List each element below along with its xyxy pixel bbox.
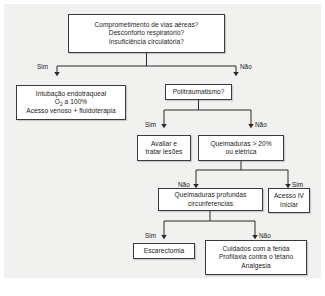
- node-line: Analgesia: [241, 262, 270, 270]
- edge-label-airway-yes: Sim: [37, 63, 48, 70]
- node-deep-circumferential-burns: Queimaduras profundas circunferencias: [158, 188, 263, 211]
- edge-label-deepburns-no: Não: [259, 232, 271, 239]
- node-iv-access-start: Acesso IV Iniciar: [268, 188, 310, 213]
- node-line: Cuidados com a ferida: [222, 245, 289, 253]
- edge-label-polytrauma-yes: Sim: [145, 121, 156, 128]
- edge-label-deepburns-yes: Sim: [145, 232, 156, 239]
- node-line: Profilaxia contra o tétano: [219, 253, 293, 261]
- node-line: Queimaduras profundas: [175, 191, 247, 199]
- node-line: Intubação endotraqueal: [36, 90, 106, 98]
- node-line: Politraumatismo?: [173, 88, 225, 96]
- node-escharotomy: Escarectomia: [133, 243, 195, 259]
- node-polytrauma-question: Politraumatismo?: [165, 84, 232, 100]
- node-line: Acesso IV: [274, 192, 304, 200]
- node-line: circunferencias: [188, 200, 233, 208]
- edge-label-burns20-yes: Sim: [292, 181, 303, 188]
- node-burns-over-20-percent: Queimaduras > 20% ou elétrica: [198, 135, 284, 161]
- node-airway-assessment: Comprometimento de vias aéreas? Desconfo…: [68, 14, 225, 53]
- flowchart-figure: Comprometimento de vias aéreas? Desconfo…: [0, 0, 325, 296]
- node-line: Escarectomia: [144, 247, 185, 255]
- node-wound-care: Cuidados com a ferida Profilaxia contra …: [205, 240, 307, 275]
- node-evaluate-treat-lesions: Avaliar e tratar lesões: [137, 135, 191, 161]
- node-line: ou elétrica: [226, 148, 257, 156]
- edge-label-airway-no: Não: [240, 63, 252, 70]
- node-line: Insuficiência circulatória?: [109, 38, 184, 46]
- node-intubation-treatment: Intubação endotraqueal O2 a 100% Acesso …: [16, 85, 126, 120]
- node-line: Desconforto respiratório?: [109, 29, 184, 37]
- node-line: Iniciar: [280, 201, 298, 209]
- node-line: Avaliar e: [151, 140, 177, 148]
- node-line: Acesso venoso + fluidoterapia: [26, 107, 116, 115]
- edge-label-burns20-no: Não: [178, 181, 190, 188]
- node-line: tratar lesões: [146, 148, 183, 156]
- edge-label-polytrauma-no: Não: [255, 121, 267, 128]
- node-line: Comprometimento de vias aéreas?: [94, 21, 198, 29]
- node-line: Queimaduras > 20%: [210, 140, 271, 148]
- node-line-o2: O2 a 100%: [55, 98, 88, 106]
